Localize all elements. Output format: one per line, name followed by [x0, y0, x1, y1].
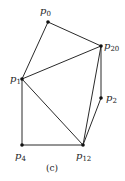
label-p0: p0 — [40, 5, 51, 18]
figure-caption: (c) — [46, 163, 58, 173]
nodes-group — [20, 20, 103, 147]
label-p2: p2 — [106, 92, 117, 105]
edge-p2-p12 — [83, 98, 101, 145]
edge-p20-p12 — [83, 46, 101, 145]
node-p12 — [81, 143, 85, 147]
node-p2 — [99, 96, 103, 100]
edges-group — [22, 22, 101, 145]
node-p4 — [20, 143, 24, 147]
label-p1: p1 — [10, 73, 21, 86]
node-p0 — [46, 20, 50, 24]
label-p4: p4 — [15, 150, 26, 163]
label-p20: p20 — [104, 40, 119, 53]
edge-p0-p20 — [48, 22, 101, 46]
label-p12: p12 — [76, 150, 91, 163]
edge-p0-p1 — [22, 22, 48, 79]
edge-p1-p20 — [22, 46, 101, 79]
node-p20 — [99, 44, 103, 48]
graph-diagram: p0p20p1p2p4p12 (c) — [0, 0, 125, 181]
edge-p1-p12 — [22, 79, 83, 145]
